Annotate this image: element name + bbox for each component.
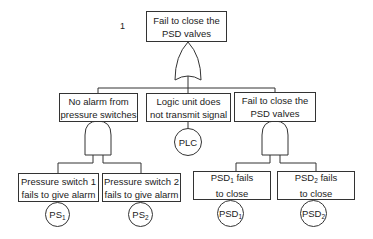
- event-line1: No alarm from: [68, 95, 128, 108]
- top-event-line2: PSD valves: [162, 27, 211, 40]
- and-gate-icon: [262, 121, 288, 155]
- or-gate-icon: [175, 42, 201, 80]
- symbol-label: PSD1: [219, 208, 242, 220]
- symbol-label: PS2: [132, 209, 148, 221]
- event-fail-close-psd-box: Fail to close the PSD valves: [234, 92, 316, 122]
- event-line1: PSD2 fails: [295, 171, 338, 187]
- basic-event-psd1-box: PSD1 fails to close: [193, 171, 271, 200]
- symbol-label: PSD2: [302, 208, 325, 220]
- event-line1: Logic unit does: [157, 95, 221, 108]
- and-gate-icon: [85, 121, 111, 155]
- event-line1: Pressure switch 2: [104, 175, 179, 188]
- event-line2: to close: [300, 187, 333, 200]
- event-line2: to close: [216, 187, 249, 200]
- basic-event-ps1-circle: PS1: [45, 202, 70, 227]
- event-line2: fails to give alarm: [22, 188, 96, 201]
- basic-event-ps1-box: Pressure switch 1 fails to give alarm: [18, 173, 99, 202]
- top-event-line1: Fail to close the: [153, 14, 220, 27]
- basic-event-ps2-box: Pressure switch 2 fails to give alarm: [102, 173, 181, 202]
- event-logic-unit-box: Logic unit does not transmit signal: [146, 93, 231, 122]
- event-index-label: 1: [120, 21, 125, 31]
- event-line2: not transmit signal: [150, 108, 227, 121]
- event-line1: Pressure switch 1: [21, 175, 96, 188]
- basic-event-psd1-circle: PSD1: [217, 200, 244, 227]
- basic-event-ps2-circle: PS2: [128, 202, 153, 227]
- event-line2: pressure switches: [60, 108, 136, 121]
- top-event-box: Fail to close the PSD valves: [146, 11, 227, 42]
- event-line1: Fail to close the: [242, 94, 309, 107]
- symbol-label: PLC: [179, 137, 197, 148]
- event-line2: PSD valves: [250, 107, 299, 120]
- basic-event-psd2-circle: PSD2: [300, 200, 327, 227]
- event-line1: PSD1 fails: [211, 171, 254, 187]
- event-no-alarm-box: No alarm from pressure switches: [59, 93, 138, 122]
- symbol-label: PS1: [49, 209, 65, 221]
- basic-event-psd2-box: PSD2 fails to close: [277, 171, 355, 200]
- event-line2: fails to give alarm: [105, 188, 179, 201]
- basic-event-plc-circle: PLC: [174, 128, 202, 156]
